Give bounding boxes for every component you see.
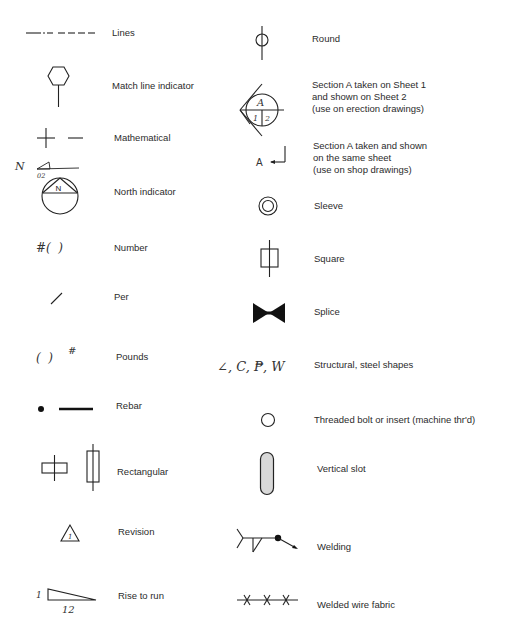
label-line: and shown on Sheet 2 <box>312 91 426 103</box>
per-slash-icon <box>50 291 64 305</box>
number-symbol-icon: #( ) <box>36 240 86 256</box>
label-round: Round <box>312 33 340 45</box>
section-marker-icon: A 1 2 <box>238 82 286 138</box>
splice-bowtie-icon <box>251 301 287 325</box>
label-line: Section A taken on Sheet 1 <box>312 79 426 91</box>
label-revision: Revision <box>118 526 154 538</box>
vertical-slot-icon <box>259 451 277 497</box>
label-welded-wire-fabric: Welded wire fabric <box>317 599 395 611</box>
label-line: Section A taken and shown <box>313 140 427 152</box>
run-value: 12 <box>62 604 75 615</box>
label-square: Square <box>314 253 345 265</box>
section-letter: A <box>256 157 263 168</box>
north-indicator-icon: N <box>41 177 81 217</box>
revision-number: 1 <box>68 533 72 541</box>
label-number: Number <box>114 242 148 254</box>
label-pounds: Pounds <box>116 351 148 363</box>
dash-dot-line-icon <box>25 30 95 38</box>
square-icon <box>259 239 281 279</box>
label-mathematical: Mathematical <box>114 132 171 144</box>
steel-shapes-text: ∠, C, ₱, W <box>217 359 286 374</box>
threaded-bolt-icon <box>260 412 276 428</box>
label-line: (use on erection drawings) <box>312 103 426 115</box>
label-rectangular: Rectangular <box>117 466 168 478</box>
label-splice: Splice <box>314 306 340 318</box>
label-lines: Lines <box>112 27 135 39</box>
svg-text:( ): ( ) <box>36 351 53 365</box>
rise-value: 1 <box>36 590 42 600</box>
welded-wire-fabric-icon <box>236 593 300 607</box>
rebar-icon <box>36 403 96 415</box>
label-section-shop: Section A taken and shown on the same sh… <box>313 140 427 176</box>
label-structural-steel: Structural, steel shapes <box>314 359 413 371</box>
label-line: (use on shop drawings) <box>313 164 427 176</box>
label-north-indicator: North indicator <box>114 186 176 198</box>
svg-text:#: # <box>68 345 76 356</box>
label-line: on the same sheet <box>313 152 427 164</box>
label-threaded-bolt: Threaded bolt or insert (machine thr'd) <box>314 414 475 426</box>
plus-minus-icon <box>35 126 85 150</box>
label-rise-to-run: Rise to run <box>118 590 164 602</box>
welding-symbol-icon <box>236 528 302 566</box>
label-match-line: Match line indicator <box>112 80 194 92</box>
sheet-to: 2 <box>264 114 270 123</box>
label-sleeve: Sleeve <box>314 200 343 212</box>
svg-text:#( ): #( ) <box>36 241 63 255</box>
svg-text:N: N <box>56 184 62 193</box>
sleeve-icon <box>257 195 279 217</box>
label-welding: Welding <box>317 541 351 553</box>
label-vertical-slot: Vertical slot <box>317 463 366 475</box>
section-arrow-icon: A <box>256 144 288 168</box>
revision-triangle-icon: 1 <box>59 523 81 543</box>
north-letter: N <box>14 160 25 173</box>
label-per: Per <box>114 291 129 303</box>
match-line-hexagon-icon <box>44 64 74 109</box>
steel-shapes-icon: ∠, C, ₱, W <box>217 356 297 376</box>
label-section-erection: Section A taken on Sheet 1 and shown on … <box>312 79 426 115</box>
rise-to-run-icon: 1 12 <box>36 586 100 618</box>
round-icon <box>254 24 270 62</box>
section-letter: A <box>256 97 264 108</box>
sheet-from: 1 <box>253 114 258 123</box>
label-rebar: Rebar <box>116 400 142 412</box>
rectangular-icon <box>40 443 104 493</box>
pounds-symbol-icon: ( ) # <box>36 344 86 366</box>
